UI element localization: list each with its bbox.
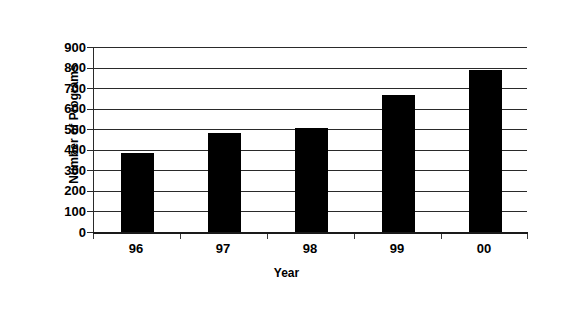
- x-tick-label-97: 97: [193, 241, 253, 256]
- bar-99: [382, 95, 415, 232]
- y-tick-label-100: 100: [46, 205, 86, 218]
- x-axis-line: [93, 232, 528, 234]
- x-axis-tick-start: [93, 234, 94, 239]
- x-axis-title: Year: [30, 266, 543, 280]
- chart-figure: 900 800 700 600 500 400 300 200 100 0 Nu…: [30, 23, 543, 292]
- bar-96: [121, 153, 154, 232]
- x-axis-tick-3: [441, 234, 442, 239]
- x-axis-tick-0: [180, 234, 181, 239]
- plot-area: [93, 47, 527, 232]
- x-tick-label-00: 00: [454, 241, 514, 256]
- gridline-600: [93, 109, 527, 110]
- x-tick-label-96: 96: [106, 241, 166, 256]
- y-tick-label-0: 0: [46, 226, 86, 239]
- bar-00: [469, 70, 502, 232]
- bar-98: [295, 128, 328, 232]
- x-axis-tick-4: [527, 234, 528, 239]
- gridline-900: [93, 47, 527, 48]
- y-axis-title: Number of Programs: [67, 49, 81, 199]
- gridline-800: [93, 68, 527, 69]
- gridline-700: [93, 88, 527, 89]
- x-axis-tick-2: [354, 234, 355, 239]
- bar-97: [208, 133, 241, 232]
- x-tick-label-98: 98: [280, 241, 340, 256]
- x-axis-tick-1: [267, 234, 268, 239]
- x-tick-label-99: 99: [367, 241, 427, 256]
